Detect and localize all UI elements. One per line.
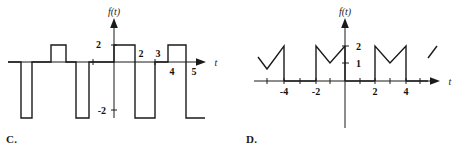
c-xlabel-3: 3 xyxy=(156,48,161,59)
d-xlabel-4: 4 xyxy=(404,86,409,97)
c-xlabel-5: 5 xyxy=(192,66,197,77)
chart-c-plot: 2 -2 2 3 4 5 f(t) t xyxy=(0,0,232,140)
chart-d-plot: 2 1 -4 -2 2 4 f(t) t xyxy=(232,0,464,140)
c-xlabel-4: 4 xyxy=(170,66,175,77)
panel-c: 2 -2 2 3 4 5 f(t) t C. xyxy=(0,0,232,151)
c-ylabel-neg2: -2 xyxy=(98,105,106,116)
d-axis-title-t: t xyxy=(449,76,452,87)
d-waveform-seg-4 xyxy=(375,46,406,81)
panel-d: 2 1 -4 -2 2 4 f(t) t D. xyxy=(232,0,464,151)
c-axis-title-ft: f(t) xyxy=(108,6,121,18)
panel-c-label: C. xyxy=(6,133,17,145)
c-x-axis-arrow xyxy=(196,58,206,66)
d-waveform-seg-5 xyxy=(428,46,437,58)
figure-root: 2 -2 2 3 4 5 f(t) t C. xyxy=(0,0,464,151)
c-y-axis-arrow xyxy=(110,18,118,28)
d-xlabel-2: 2 xyxy=(373,86,378,97)
panel-d-label: D. xyxy=(246,133,257,145)
c-xlabel-2: 2 xyxy=(139,48,144,59)
c-ylabel-2: 2 xyxy=(96,39,101,50)
d-waveform-seg-1 xyxy=(258,46,284,81)
c-axis-title-t: t xyxy=(215,57,218,68)
d-xlabel-neg4: -4 xyxy=(280,86,288,97)
d-waveform-seg-2 xyxy=(316,46,345,81)
d-axis-title-ft: f(t) xyxy=(339,6,352,18)
d-x-axis-arrow xyxy=(430,77,440,85)
d-ylabel-1: 1 xyxy=(356,58,361,69)
d-ylabel-2: 2 xyxy=(356,41,361,52)
d-xlabel-neg2: -2 xyxy=(312,86,320,97)
d-y-axis-arrow xyxy=(341,18,349,28)
c-waveform xyxy=(8,45,205,118)
